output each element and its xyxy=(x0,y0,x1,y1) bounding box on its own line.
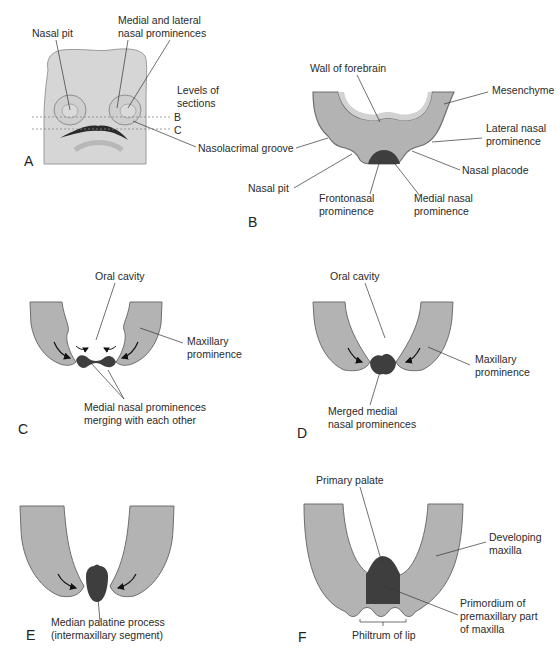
label-lateral-nasal-prominence: Lateral nasal prominence xyxy=(486,122,546,148)
label-level-c: C xyxy=(174,124,182,137)
panel-letter-e: E xyxy=(26,627,35,643)
label-medial-nasal-prominence: Medial nasal prominence xyxy=(414,192,473,218)
label-wall-of-forebrain: Wall of forebrain xyxy=(310,62,386,75)
panel-letter-b: B xyxy=(248,214,257,230)
label-frontonasal-prominence: Frontonasal prominence xyxy=(319,192,374,218)
label-maxillary-prominence-c: Maxillary prominence xyxy=(187,335,242,361)
label-nasolacrimal-groove: Nasolacrimal groove xyxy=(198,142,294,155)
panel-d-drawing xyxy=(313,283,470,405)
panel-letter-a: A xyxy=(24,153,33,169)
label-nasal-pit-a: Nasal pit xyxy=(32,27,73,40)
label-nasal-placode: Nasal placode xyxy=(462,164,529,177)
label-merged-medial-nasal: Merged medial nasal prominences xyxy=(328,405,416,431)
label-mesenchyme: Mesenchyme xyxy=(492,84,554,97)
panel-b-section-drawing xyxy=(294,75,488,196)
panel-c-drawing xyxy=(30,283,183,399)
label-median-palatine-process: Median palatine process (intermaxillary … xyxy=(51,616,165,642)
label-developing-maxilla: Developing maxilla xyxy=(489,531,542,557)
label-medial-nasal-merging: Medial nasal prominences merging with ea… xyxy=(84,401,206,427)
label-nasal-pit-b: Nasal pit xyxy=(248,182,289,195)
label-maxillary-prominence-d: Maxillary prominence xyxy=(475,353,530,379)
label-level-b: B xyxy=(174,111,181,124)
label-primordium-premaxillary: Primordium of premaxillary part of maxil… xyxy=(460,597,538,636)
label-primary-palate: Primary palate xyxy=(316,474,384,487)
panel-e-drawing xyxy=(20,506,174,622)
label-philtrum-of-lip: Philtrum of lip xyxy=(352,629,416,642)
panel-letter-f: F xyxy=(298,629,307,645)
panel-a-face-drawing xyxy=(32,40,196,164)
panel-letter-d: D xyxy=(297,425,307,441)
panel-f-drawing xyxy=(304,487,486,626)
label-levels-of-sections: Levels of sections xyxy=(177,84,219,110)
label-medial-lateral-nasal: Medial and lateral nasal prominences xyxy=(118,14,206,40)
embryology-figure xyxy=(0,0,560,650)
panel-letter-c: C xyxy=(18,421,28,437)
label-oral-cavity-c: Oral cavity xyxy=(95,270,145,283)
label-oral-cavity-d: Oral cavity xyxy=(330,270,380,283)
